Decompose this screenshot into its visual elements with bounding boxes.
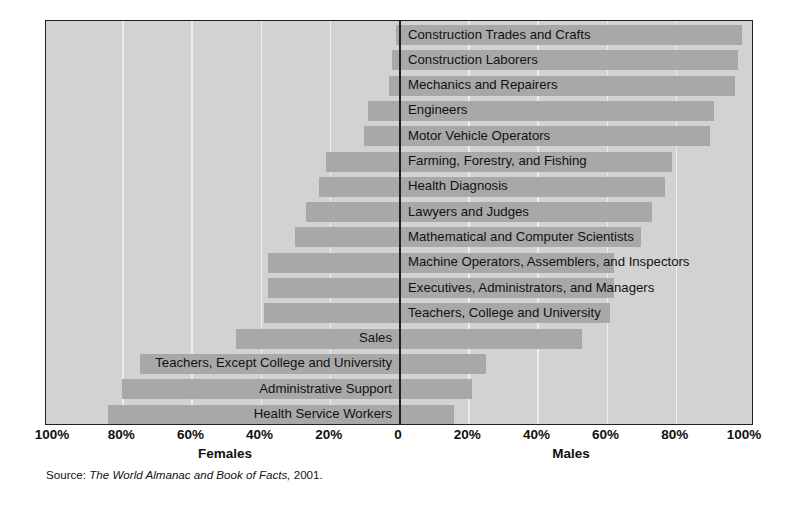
category-label: Construction Trades and Crafts (402, 22, 591, 47)
bar-female (268, 253, 399, 273)
category-label: Motor Vehicle Operators (402, 123, 550, 148)
category-label: Farming, Forestry, and Fishing (402, 148, 587, 173)
bar-female (368, 101, 399, 121)
category-label: Construction Laborers (402, 47, 538, 72)
tick-label: 60% (592, 427, 619, 442)
category-label: Health Diagnosis (402, 173, 508, 198)
bar-female (306, 202, 399, 222)
tick-label: 20% (454, 427, 481, 442)
x-axis-tick-labels: 100%80%60%40%20%020%40%60%80%100% (0, 427, 808, 447)
bar-male (399, 405, 454, 425)
zero-axis-line (399, 21, 401, 424)
source-year: 2001. (294, 468, 323, 481)
tick-label: 40% (523, 427, 550, 442)
bar-male (399, 354, 486, 374)
tick-label: 80% (108, 427, 135, 442)
category-label: Sales (359, 325, 398, 350)
tick-label: 20% (315, 427, 342, 442)
axis-group-label-females: Females (198, 446, 252, 461)
category-label: Teachers, Except College and University (155, 350, 398, 375)
bar-female (364, 126, 399, 146)
plot-area (45, 20, 753, 425)
category-label: Engineers (402, 97, 467, 122)
bar-male (399, 329, 582, 349)
tick-label: 100% (727, 427, 762, 442)
bar-female (389, 76, 399, 96)
bar-female (392, 50, 399, 70)
axis-group-label-males: Males (552, 446, 590, 461)
bar-female (326, 152, 399, 172)
category-label: Lawyers and Judges (402, 199, 529, 224)
category-label: Mathematical and Computer Scientists (402, 224, 634, 249)
bar-male (399, 379, 472, 399)
category-label: Health Service Workers (254, 401, 398, 426)
category-label: Administrative Support (259, 376, 398, 401)
bar-female (295, 227, 399, 247)
category-label: Executives, Administrators, and Managers (402, 275, 654, 300)
tick-label: 60% (177, 427, 204, 442)
chart-figure: Construction Trades and CraftsConstructi… (0, 0, 808, 508)
source-prefix: Source: (46, 468, 86, 481)
source-title: The World Almanac and Book of Facts, (89, 468, 290, 481)
category-label: Teachers, College and University (402, 300, 601, 325)
bar-female (268, 278, 399, 298)
bar-female (264, 303, 399, 323)
category-label: Mechanics and Repairers (402, 72, 558, 97)
bar-female (319, 177, 399, 197)
tick-label: 40% (246, 427, 273, 442)
tick-label: 100% (35, 427, 70, 442)
source-note: Source: The World Almanac and Book of Fa… (46, 468, 323, 481)
tick-label: 0 (394, 427, 402, 442)
tick-label: 80% (661, 427, 688, 442)
category-label: Machine Operators, Assemblers, and Inspe… (402, 249, 689, 274)
